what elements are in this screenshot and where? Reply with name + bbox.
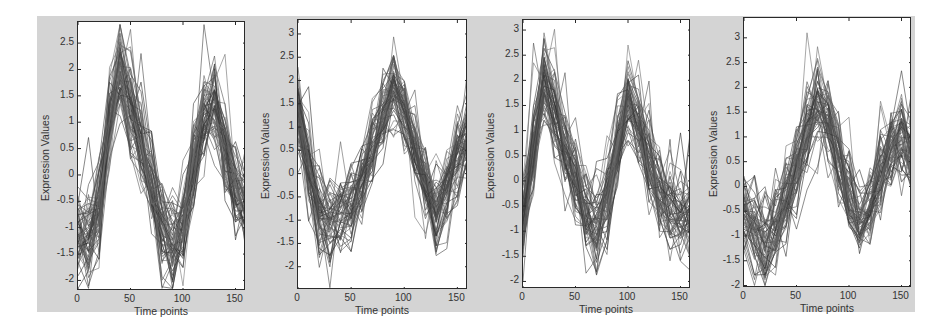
y-tick-label: -1.5 (716, 255, 740, 265)
profile-lines (298, 20, 467, 289)
y-tick-label: 0 (495, 175, 519, 185)
y-tick-label: -0.5 (495, 200, 519, 210)
y-tick-label: -0.5 (716, 205, 740, 215)
y-tick-label: -2 (50, 274, 74, 284)
y-tick-label: 0 (270, 168, 294, 178)
x-tick-label: 150 (223, 294, 247, 304)
x-tick-label: 50 (563, 292, 587, 302)
x-tick-label: 0 (65, 294, 89, 304)
x-tick-label: 100 (170, 294, 194, 304)
y-tick-label: 2.5 (50, 37, 74, 47)
y-tick-label: -1 (495, 225, 519, 235)
y-tick-label: 3 (495, 24, 519, 34)
y-tick-label: 3 (270, 28, 294, 38)
y-tick-label: 0.5 (495, 150, 519, 160)
x-tick-label: 100 (391, 293, 415, 303)
y-tick-label: -1.5 (50, 248, 74, 258)
x-tick-label: 150 (668, 292, 692, 302)
x-axis-label: Time points (101, 305, 221, 317)
y-tick-label: 1.5 (716, 106, 740, 116)
x-tick-label: 150 (444, 293, 468, 303)
y-tick-label: -2 (270, 261, 294, 271)
x-tick-label: 50 (118, 294, 142, 304)
y-axis-label: Expression Values (259, 113, 271, 199)
y-tick-label: -2 (495, 275, 519, 285)
x-tick-label: 50 (338, 293, 362, 303)
y-tick-label: 3 (716, 32, 740, 42)
y-tick-label: 1.5 (270, 98, 294, 108)
y-tick-label: -1 (50, 222, 74, 232)
y-tick-label: 2 (495, 74, 519, 84)
y-tick-label: -0.5 (270, 191, 294, 201)
y-tick-label: 2 (270, 75, 294, 85)
y-tick-label: 1 (716, 131, 740, 141)
y-tick-label: -1.5 (270, 237, 294, 247)
y-tick-label: 2.5 (270, 51, 294, 61)
y-axis-label: Expression Values (39, 114, 51, 200)
y-tick-label: 0 (50, 169, 74, 179)
y-tick-label: -1.5 (495, 250, 519, 260)
y-tick-label: 2 (716, 81, 740, 91)
x-tick-label: 50 (784, 291, 808, 301)
x-axis-label: Time points (767, 302, 887, 314)
x-tick-label: 100 (836, 291, 860, 301)
x-tick-label: 0 (731, 291, 755, 301)
x-tick-label: 0 (510, 292, 534, 302)
y-tick-label: -1 (716, 230, 740, 240)
x-tick-label: 100 (615, 292, 639, 302)
profile-lines (744, 18, 911, 287)
y-tick-label: 2.5 (495, 49, 519, 59)
y-tick-label: -1 (270, 214, 294, 224)
y-axis-label: Expression Values (484, 112, 496, 198)
y-tick-label: 1.5 (50, 90, 74, 100)
x-axis-label: Time points (546, 303, 666, 315)
profile-lines (523, 20, 690, 288)
y-tick-label: 0.5 (270, 144, 294, 154)
plot-area (297, 19, 467, 289)
y-tick-label: 1 (50, 116, 74, 126)
figure: -2-1.5-1-0.500.511.522.5050100150Express… (0, 0, 949, 334)
y-tick-label: 2.5 (716, 57, 740, 67)
x-tick-label: 150 (889, 291, 913, 301)
x-axis-label: Time points (322, 304, 442, 316)
plot-area (77, 21, 245, 290)
y-tick-label: 0.5 (50, 143, 74, 153)
y-tick-label: -0.5 (50, 195, 74, 205)
x-tick-label: 0 (285, 293, 309, 303)
y-tick-label: 1 (495, 125, 519, 135)
y-tick-label: 1 (270, 121, 294, 131)
plot-area (743, 17, 911, 287)
y-axis-label: Expression Values (707, 111, 719, 197)
profile-lines (78, 22, 245, 290)
plot-area (522, 19, 690, 288)
y-tick-label: 0.5 (716, 156, 740, 166)
y-tick-label: 1.5 (495, 99, 519, 109)
y-tick-label: 0 (716, 180, 740, 190)
y-tick-label: -2 (716, 280, 740, 290)
y-tick-label: 2 (50, 63, 74, 73)
